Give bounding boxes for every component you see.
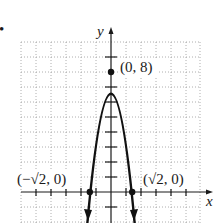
y-axis-arrow-icon	[109, 27, 114, 34]
right-intercept-label: (√2, 0)	[143, 171, 184, 188]
left-intercept-point	[87, 189, 93, 195]
left-intercept-label: (−√2, 0)	[17, 171, 66, 188]
vertex-label: (0, 8)	[120, 59, 153, 76]
x-axis	[21, 188, 213, 196]
curve-arrow-right-icon	[130, 209, 138, 221]
graph: •	[0, 0, 214, 223]
x-axis-label: x	[205, 193, 213, 209]
curve-arrow-left-icon	[84, 209, 92, 221]
y-axis	[105, 27, 117, 223]
vertex-point	[108, 69, 114, 75]
bullet-marker: •	[0, 21, 4, 37]
y-axis-label: y	[95, 23, 104, 39]
right-intercept-point	[129, 189, 135, 195]
